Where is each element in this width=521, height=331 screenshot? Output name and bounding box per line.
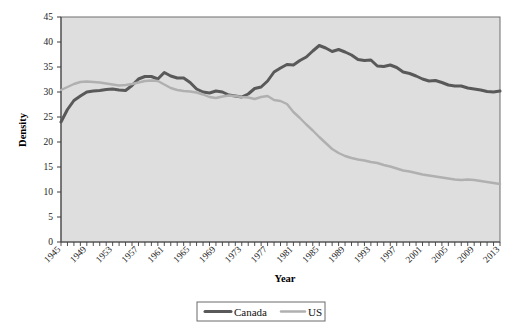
legend-label-canada: Canada [234, 306, 267, 318]
y-tick-label: 5 [48, 212, 53, 222]
y-tick-label: 35 [44, 62, 54, 72]
x-tick-label: 2001 [404, 244, 424, 264]
x-tick-label: 1985 [300, 244, 320, 264]
line-chart-figure: 051015202530354045 194519491953195719611… [0, 0, 521, 331]
x-tick-label: 1993 [352, 244, 372, 264]
x-tick-label: 1945 [42, 244, 62, 264]
x-tick-label: 1989 [326, 244, 346, 264]
y-axis-ticks: 051015202530354045 [44, 12, 62, 247]
x-tick-label: 1957 [120, 244, 140, 264]
y-tick-label: 45 [44, 12, 54, 22]
x-tick-label: 1949 [68, 244, 88, 264]
x-tick-label: 2005 [430, 244, 450, 264]
x-tick-label: 1981 [275, 244, 295, 264]
chart-canvas: 051015202530354045 194519491953195719611… [0, 0, 521, 331]
y-tick-label: 40 [44, 37, 54, 47]
x-axis-title: Year [275, 273, 296, 284]
x-tick-label: 1965 [171, 244, 191, 264]
chart-legend: Canada US [197, 302, 325, 321]
x-axis-tick-labels: 1945194919531957196119651969197319771981… [42, 244, 501, 264]
y-tick-label: 30 [44, 87, 54, 97]
x-tick-label: 2013 [481, 244, 501, 264]
x-tick-label: 1997 [378, 244, 398, 264]
x-tick-label: 1977 [249, 244, 269, 264]
x-tick-label: 2009 [455, 244, 475, 264]
y-tick-label: 10 [44, 187, 54, 197]
x-tick-label: 1969 [197, 244, 217, 264]
y-axis-title: Density [17, 112, 28, 147]
y-tick-label: 20 [44, 137, 54, 147]
x-tick-label: 1953 [94, 244, 114, 264]
y-tick-label: 25 [44, 112, 54, 122]
x-tick-label: 1973 [223, 244, 243, 264]
plot-area-background [61, 17, 500, 242]
y-tick-label: 15 [44, 162, 54, 172]
x-axis-ticks [61, 242, 500, 246]
x-tick-label: 1961 [145, 244, 165, 264]
legend-label-us: US [308, 306, 322, 318]
